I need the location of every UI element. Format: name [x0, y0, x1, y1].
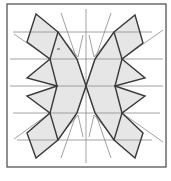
diagram-canvas — [0, 0, 171, 181]
geometric-diagram — [0, 0, 171, 181]
